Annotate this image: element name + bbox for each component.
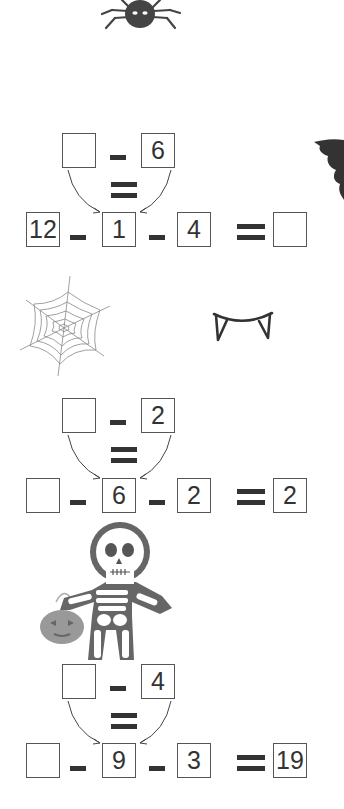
bottom-box-c[interactable]: 2 [177, 478, 211, 513]
bottom-box-a[interactable]: 12 [26, 212, 60, 247]
result-box[interactable] [273, 212, 307, 247]
minus-sign [149, 235, 165, 240]
minus-sign [70, 766, 86, 771]
bottom-box-a[interactable] [26, 478, 60, 513]
arrows-icon [0, 265, 344, 565]
bottom-box-b[interactable]: 6 [102, 478, 136, 513]
bottom-box-b[interactable]: 1 [102, 212, 136, 247]
minus-sign [149, 766, 165, 771]
bottom-box-b[interactable]: 9 [102, 743, 136, 778]
minus-sign [149, 500, 165, 505]
bottom-box-c[interactable]: 3 [177, 743, 211, 778]
minus-sign [70, 235, 86, 240]
bottom-box-c[interactable]: 4 [177, 212, 211, 247]
result-box[interactable]: 19 [273, 743, 307, 778]
minus-sign [70, 500, 86, 505]
result-box[interactable]: 2 [273, 478, 307, 513]
bottom-box-a[interactable] [26, 743, 60, 778]
